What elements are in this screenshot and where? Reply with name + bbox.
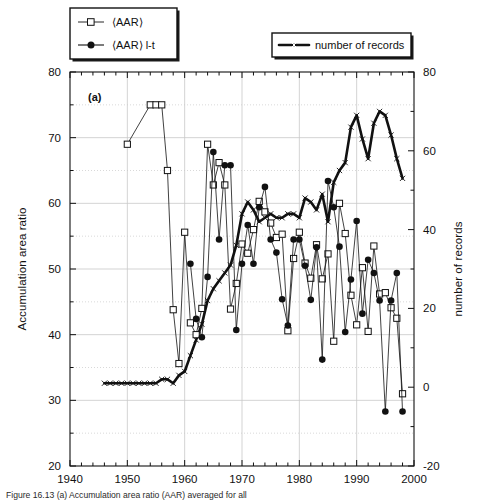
marker-filled-circle <box>308 297 315 304</box>
marker-open-square <box>216 160 222 166</box>
y-tick-label: 40 <box>48 329 61 341</box>
y-tick-label: 50 <box>48 263 61 275</box>
x-tick-label: 2000 <box>401 473 427 485</box>
marker-open-square <box>176 360 182 366</box>
marker-filled-circle <box>279 296 286 303</box>
open-square-icon <box>88 19 95 26</box>
marker-open-square <box>182 229 188 235</box>
marker-open-square <box>354 322 360 328</box>
marker-filled-circle <box>382 408 389 415</box>
marker-filled-circle <box>348 276 355 283</box>
marker-filled-circle <box>290 236 297 243</box>
y-axis-title: Accumulation area ratio <box>16 207 28 330</box>
marker-open-square <box>342 230 348 236</box>
marker-open-square <box>291 255 297 261</box>
marker-open-square <box>193 332 199 338</box>
marker-filled-circle <box>313 244 320 251</box>
marker-filled-circle <box>233 327 240 334</box>
y2-tick-label: 80 <box>423 66 436 78</box>
marker-filled-circle <box>204 274 211 281</box>
marker-open-square <box>399 391 405 397</box>
marker-filled-circle <box>342 329 349 336</box>
marker-open-square <box>227 306 233 312</box>
filled-circle-icon <box>88 42 95 49</box>
x-tick-label: 1950 <box>115 473 141 485</box>
y-tick-label: 20 <box>48 460 61 472</box>
marker-filled-circle <box>353 218 360 225</box>
marker-filled-circle <box>250 260 257 267</box>
marker-filled-circle <box>330 204 337 211</box>
marker-filled-circle <box>388 297 395 304</box>
marker-open-square <box>296 229 302 235</box>
marker-open-square <box>233 280 239 286</box>
y2-tick-label: 60 <box>423 145 436 157</box>
figure-caption: Figure 16.13 (a) Accumulation area ratio… <box>6 490 476 503</box>
marker-open-square <box>164 167 170 173</box>
x-tick-label: 1990 <box>344 473 370 485</box>
y-tick-label: 60 <box>48 197 61 209</box>
marker-filled-circle <box>296 236 303 243</box>
x-tick-label: 1970 <box>229 473 255 485</box>
y-tick-label: 80 <box>48 66 61 78</box>
legend-label-records: number of records <box>315 39 405 51</box>
marker-filled-circle <box>244 222 251 229</box>
marker-filled-circle <box>399 408 406 415</box>
y-tick-label: 70 <box>48 132 61 144</box>
marker-open-square <box>371 243 377 249</box>
marker-filled-circle <box>359 310 366 317</box>
aar-number-of-records-chart: 1940195019601970198019902000203040506070… <box>0 0 481 503</box>
marker-open-square <box>336 200 342 206</box>
y2-axis-title: number of records <box>452 221 464 316</box>
marker-open-square <box>245 250 251 256</box>
marker-filled-circle <box>239 260 246 267</box>
marker-filled-circle <box>216 236 223 243</box>
marker-open-square <box>279 231 285 237</box>
marker-filled-circle <box>302 262 309 269</box>
marker-filled-circle <box>365 257 372 264</box>
marker-filled-circle <box>371 270 378 277</box>
marker-filled-circle <box>336 243 343 250</box>
marker-filled-circle <box>222 162 229 169</box>
marker-open-square <box>187 320 193 326</box>
marker-open-square <box>222 182 228 188</box>
legend-label-aar: ⟨AAR⟩ <box>112 16 143 28</box>
marker-open-square <box>382 290 388 296</box>
y2-tick-label: 0 <box>423 381 429 393</box>
marker-open-square <box>365 328 371 334</box>
marker-filled-circle <box>319 356 326 363</box>
marker-filled-circle <box>376 297 383 304</box>
marker-filled-circle <box>187 260 194 267</box>
marker-filled-circle <box>285 322 292 329</box>
y2-tick-label: 40 <box>423 224 436 236</box>
marker-filled-circle <box>394 270 401 277</box>
marker-filled-circle <box>273 249 280 256</box>
marker-open-square <box>331 338 337 344</box>
marker-filled-circle <box>227 162 234 169</box>
x-tick-label: 1980 <box>287 473 313 485</box>
marker-open-square <box>250 227 256 233</box>
marker-open-square <box>170 307 176 313</box>
marker-filled-circle <box>262 184 269 191</box>
marker-filled-circle <box>325 178 332 185</box>
y-tick-label: 30 <box>48 394 61 406</box>
x-tick-label: 1940 <box>57 473 83 485</box>
marker-filled-circle <box>256 204 263 211</box>
figure-panel-a: 1940195019601970198019902000203040506070… <box>0 0 481 503</box>
marker-open-square <box>359 265 365 271</box>
marker-filled-circle <box>199 334 206 341</box>
marker-open-square <box>205 141 211 147</box>
marker-filled-circle <box>193 316 200 323</box>
marker-open-square <box>159 102 165 108</box>
legend-label-aar-lt: ⟨AAR⟩ l-t <box>112 39 155 51</box>
marker-filled-circle <box>267 236 274 243</box>
marker-filled-circle <box>210 149 217 156</box>
y2-tick-label: 20 <box>423 302 436 314</box>
marker-open-square <box>239 241 245 247</box>
marker-open-square <box>124 141 130 147</box>
y2-tick-label: -20 <box>423 460 440 472</box>
x-tick-label: 1960 <box>172 473 198 485</box>
panel-label: (a) <box>88 91 102 103</box>
